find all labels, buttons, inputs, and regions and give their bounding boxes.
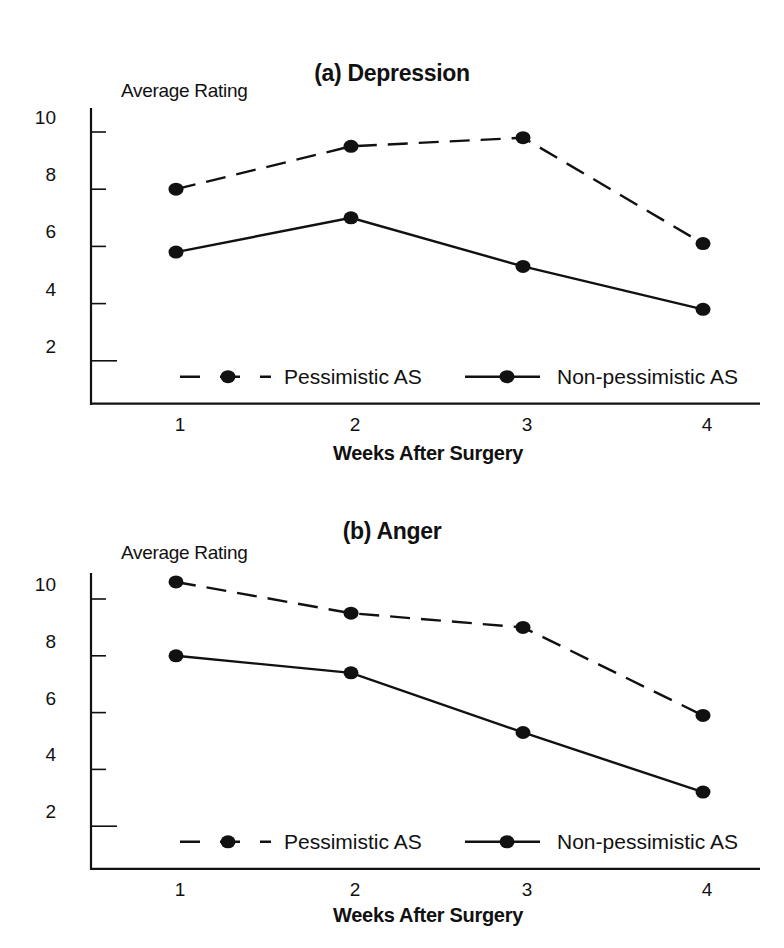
data-point bbox=[696, 786, 711, 799]
x-tick-label: 2 bbox=[350, 414, 361, 435]
data-point bbox=[696, 709, 711, 722]
data-point bbox=[696, 303, 711, 316]
series-line-non-pessimistic bbox=[176, 656, 703, 792]
legend: Pessimistic ASNon-pessimistic AS bbox=[180, 365, 738, 388]
y-tick-label: 6 bbox=[45, 221, 56, 242]
legend-label-pessimistic: Pessimistic AS bbox=[284, 365, 422, 388]
data-point bbox=[516, 131, 531, 144]
chart-panel-anger: (b) Anger Average Rating 2468101234Pessi… bbox=[0, 465, 784, 948]
x-tick-label: 4 bbox=[702, 879, 713, 900]
data-point bbox=[516, 260, 531, 273]
data-point bbox=[344, 607, 359, 620]
y-tick-label: 10 bbox=[35, 574, 56, 595]
y-tick-label: 2 bbox=[45, 336, 56, 357]
y-tick-label: 8 bbox=[45, 164, 56, 185]
y-tick-label: 10 bbox=[35, 107, 56, 128]
legend-marker bbox=[500, 835, 515, 848]
x-tick-label: 1 bbox=[175, 879, 186, 900]
series-line-pessimistic bbox=[176, 138, 703, 244]
y-tick-label: 4 bbox=[45, 744, 56, 765]
y-tick-label: 6 bbox=[45, 688, 56, 709]
x-tick-label: 1 bbox=[175, 414, 186, 435]
x-tick-label: 2 bbox=[350, 879, 361, 900]
data-point bbox=[344, 211, 359, 224]
legend-label-non-pessimistic: Non-pessimistic AS bbox=[557, 365, 738, 388]
data-point bbox=[344, 140, 359, 153]
y-tick-label: 2 bbox=[45, 801, 56, 822]
x-tick-label: 3 bbox=[522, 879, 533, 900]
data-point bbox=[516, 726, 531, 739]
line-chart-depression: 2468101234Pessimistic ASNon-pessimistic … bbox=[0, 0, 784, 480]
line-chart-anger: 2468101234Pessimistic ASNon-pessimistic … bbox=[0, 465, 784, 948]
chart-panel-depression: (a) Depression Average Rating 2468101234… bbox=[0, 0, 784, 480]
x-tick-label: 4 bbox=[702, 414, 713, 435]
data-point bbox=[169, 575, 184, 588]
series-line-non-pessimistic bbox=[176, 218, 703, 310]
legend-marker bbox=[221, 370, 236, 383]
legend: Pessimistic ASNon-pessimistic AS bbox=[180, 830, 738, 853]
legend-marker bbox=[221, 835, 236, 848]
legend-label-non-pessimistic: Non-pessimistic AS bbox=[557, 830, 738, 853]
data-point bbox=[516, 621, 531, 634]
data-point bbox=[169, 649, 184, 662]
x-axis-label: Weeks After Surgery bbox=[0, 904, 784, 927]
data-point bbox=[344, 666, 359, 679]
x-tick-label: 3 bbox=[522, 414, 533, 435]
legend-label-pessimistic: Pessimistic AS bbox=[284, 830, 422, 853]
series-line-pessimistic bbox=[176, 582, 703, 715]
y-tick-label: 4 bbox=[45, 279, 56, 300]
data-point bbox=[169, 183, 184, 196]
x-axis-label: Weeks After Surgery bbox=[0, 442, 784, 465]
data-point bbox=[696, 237, 711, 250]
y-tick-label: 8 bbox=[45, 631, 56, 652]
data-point bbox=[169, 246, 184, 259]
legend-marker bbox=[500, 370, 515, 383]
